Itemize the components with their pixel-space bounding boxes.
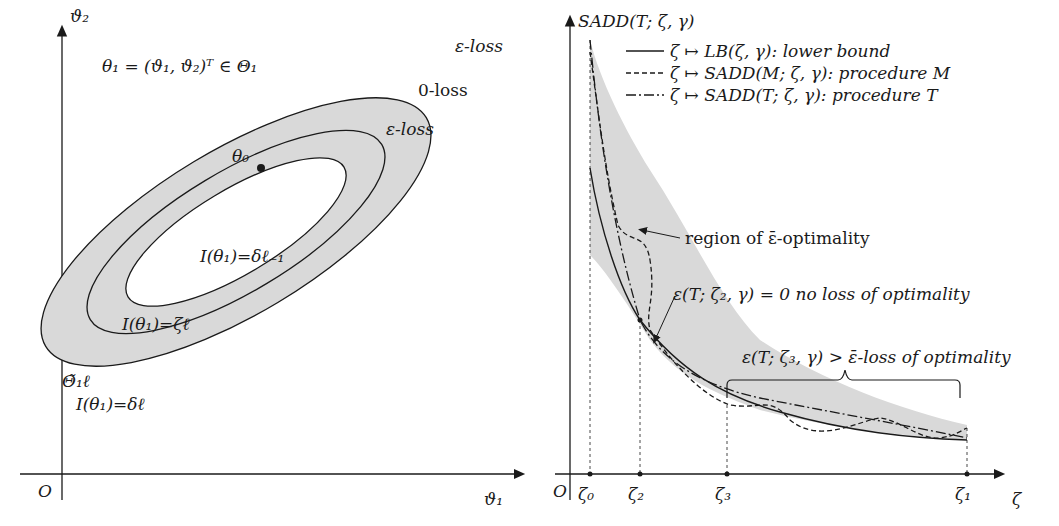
region-label: Θ̃₁ℓ bbox=[62, 371, 90, 391]
left-y-axis-label: ϑ₂ bbox=[70, 6, 89, 26]
tick-label-zeta0: ζ₀ bbox=[578, 484, 594, 504]
legend-lower-bound: ζ ↦ LB(ζ, γ): lower bound bbox=[670, 41, 890, 61]
outer-contour-label: I(θ₁)=δℓ bbox=[75, 394, 145, 414]
zeta-contour-label: I(θ₁)=ζℓ bbox=[121, 314, 190, 334]
theta-definition: θ₁ = (ϑ₁, ϑ₂)ᵀ ∈ Θ₁ bbox=[102, 56, 257, 76]
tick-label-zeta1: ζ₁ bbox=[955, 484, 971, 504]
tick-zeta0 bbox=[588, 472, 593, 477]
tick-zeta3 bbox=[725, 472, 730, 477]
tick-label-zeta2: ζ₂ bbox=[628, 484, 644, 504]
legend-procedure-m: ζ ↦ SADD(M; ζ, γ): procedure M bbox=[670, 63, 951, 83]
legend-procedure-t: ζ ↦ SADD(T; ζ, γ): procedure T bbox=[670, 85, 939, 105]
tick-zeta1 bbox=[965, 472, 970, 477]
zeta2-point bbox=[638, 318, 643, 323]
left-x-axis-label: ϑ₁ bbox=[484, 489, 503, 509]
outer-loss-label: ε-loss bbox=[455, 36, 503, 56]
theta0-point bbox=[257, 164, 265, 172]
tick-label-zeta3: ζ₃ bbox=[715, 484, 731, 504]
theta0-label: θ₀ bbox=[232, 146, 249, 166]
zero-loss-label: 0-loss bbox=[418, 80, 468, 100]
left-origin-label: O bbox=[38, 481, 52, 501]
right-x-axis-label: ζ bbox=[1012, 489, 1023, 509]
inner-loss-label: ε-loss bbox=[386, 119, 434, 139]
right-panel: ζ ↦ LB(ζ, γ): lower bound ζ ↦ SADD(M; ζ,… bbox=[553, 11, 1023, 509]
right-origin-label: O bbox=[553, 481, 567, 501]
zero-loss-annotation: ε(T; ζ₂, γ) = 0 no loss of optimality bbox=[673, 284, 970, 304]
region-annotation: region of ε̄-optimality bbox=[685, 228, 870, 248]
tick-zeta2 bbox=[638, 472, 643, 477]
loss-annotation: ε(T; ζ₃, γ) > ε̄-loss of optimality bbox=[742, 347, 1011, 367]
inner-contour-label: I(θ₁)=δℓ₋₁ bbox=[199, 246, 284, 266]
right-y-axis-label: SADD(T; ζ, γ) bbox=[578, 11, 695, 31]
left-panel: ϑ₂ ϑ₁ O θ₁ = (ϑ₁, ϑ₂)ᵀ ∈ Θ₁ θ₀ ε-loss 0-… bbox=[3, 6, 520, 509]
